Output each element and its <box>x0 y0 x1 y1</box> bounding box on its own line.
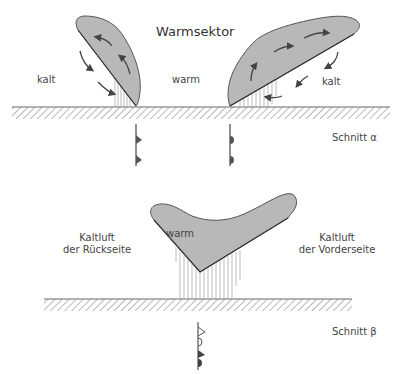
occluded-front-symbol <box>198 322 205 370</box>
warm-sector-title: Warmsektor <box>156 26 234 38</box>
cold-air-front-line1: Kaltluft <box>292 232 382 244</box>
warm-front-cloud <box>228 16 359 106</box>
cold-air-rear-label: Kaltluft der Rückseite <box>52 232 142 256</box>
warm-air-label: warm <box>172 74 200 86</box>
ground-bottom <box>44 299 352 311</box>
section-beta-label: Schnitt β <box>332 326 377 338</box>
cold-air-rear-line2: der Rückseite <box>52 244 142 256</box>
cold-air-rear-line1: Kaltluft <box>52 232 142 244</box>
cold-front-symbol <box>136 124 142 166</box>
section-alpha-label: Schnitt α <box>332 132 377 144</box>
cold-front-cloud <box>76 16 140 106</box>
cold-air-label-left: kalt <box>37 74 55 86</box>
warm-front-symbol <box>230 124 234 166</box>
ground-top <box>12 107 390 119</box>
cloud-warm-label: warm <box>166 228 194 240</box>
cold-air-front-label: Kaltluft der Vorderseite <box>292 232 382 256</box>
cold-air-label-right: kalt <box>322 76 340 88</box>
cold-air-front-line2: der Vorderseite <box>292 244 382 256</box>
diagram-canvas <box>0 0 397 374</box>
